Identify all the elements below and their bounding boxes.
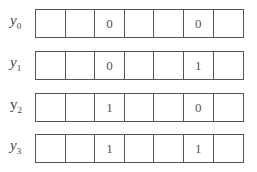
register-cell (214, 52, 244, 79)
row-label: y0 (10, 12, 21, 31)
register-cell: 1 (184, 135, 214, 162)
register: 0 1 (35, 51, 244, 80)
register-cell (36, 52, 66, 79)
row-label: y2 (10, 96, 22, 115)
register-cell: 1 (95, 94, 125, 121)
register: 1 0 (35, 93, 244, 122)
register-cell: 1 (95, 135, 125, 162)
register-cell: 0 (95, 52, 125, 79)
register-cell (154, 10, 184, 37)
register-cell (36, 94, 66, 121)
register-cell (214, 94, 244, 121)
register-cell (36, 10, 66, 37)
register-row-y2: y2 1 0 (0, 93, 257, 121)
row-label: y3 (10, 137, 21, 156)
register: 1 1 (35, 134, 244, 163)
register-cell (125, 135, 155, 162)
register-cell (214, 10, 244, 37)
register-cell (214, 135, 244, 162)
row-label: y1 (10, 54, 21, 73)
register-cell (66, 94, 96, 121)
register-cell: 0 (184, 94, 214, 121)
register-cell: 1 (184, 52, 214, 79)
register-cell (36, 135, 66, 162)
register-cell (154, 52, 184, 79)
register-cell (66, 135, 96, 162)
register-row-y0: y0 0 0 (0, 9, 257, 37)
register-cell (125, 52, 155, 79)
register-cell (125, 94, 155, 121)
register-cell (154, 135, 184, 162)
register-cell (66, 52, 96, 79)
register-cell: 0 (184, 10, 214, 37)
register-row-y3: y3 1 1 (0, 134, 257, 162)
register: 0 0 (35, 9, 244, 38)
register-row-y1: y1 0 1 (0, 51, 257, 79)
register-cell (125, 10, 155, 37)
register-cell: 0 (95, 10, 125, 37)
register-cell (154, 94, 184, 121)
register-cell (66, 10, 96, 37)
